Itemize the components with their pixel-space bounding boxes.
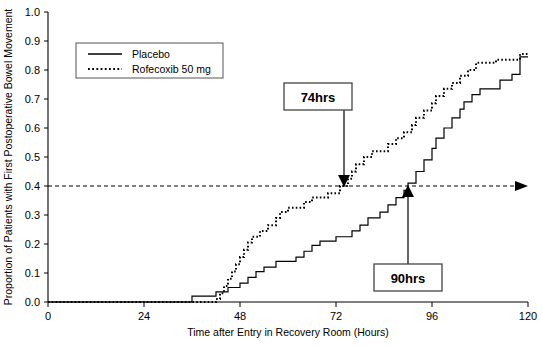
x-axis-title: Time after Entry in Recovery Room (Hours…	[187, 326, 389, 338]
legend-label-rofecoxib: Rofecoxib 50 mg	[132, 63, 211, 75]
x-axis-ticks	[48, 302, 528, 307]
y-tick-label: 0.8	[25, 64, 40, 76]
annotation-90hrs-label: 90hrs	[391, 271, 426, 286]
annotation-74hrs: 74hrs	[284, 83, 352, 187]
survival-curve-chart: 0.00.10.20.30.40.50.60.70.80.91.0 024487…	[0, 0, 542, 348]
y-tick-label: 0.5	[25, 151, 40, 163]
y-tick-label: 0.3	[25, 209, 40, 221]
y-tick-label: 0.6	[25, 122, 40, 134]
chart-figure: 0.00.10.20.30.40.50.60.70.80.91.0 024487…	[0, 0, 542, 348]
y-tick-label: 0.7	[25, 93, 40, 105]
reference-line-group	[48, 181, 528, 191]
x-tick-label: 24	[138, 310, 150, 322]
y-axis-ticks	[44, 12, 48, 302]
y-axis-title: Proportion of Patients with First Postop…	[2, 9, 14, 306]
annotation-74hrs-label: 74hrs	[301, 90, 336, 105]
y-tick-label: 0.2	[25, 238, 40, 250]
x-tick-label: 72	[330, 310, 342, 322]
y-tick-label: 0.0	[25, 296, 40, 308]
y-tick-label: 0.4	[25, 180, 40, 192]
legend-label-placebo: Placebo	[132, 48, 170, 60]
x-tick-label: 48	[234, 310, 246, 322]
annotation-90hrs: 90hrs	[374, 185, 442, 291]
y-axis-tick-labels: 0.00.10.20.30.40.50.60.70.80.91.0	[25, 6, 40, 308]
x-tick-label: 0	[45, 310, 51, 322]
reference-line-arrowhead	[515, 181, 528, 191]
x-axis-tick-labels: 024487296120	[45, 310, 537, 322]
y-tick-label: 0.9	[25, 35, 40, 47]
y-tick-label: 1.0	[25, 6, 40, 18]
y-tick-label: 0.1	[25, 267, 40, 279]
x-tick-label: 96	[426, 310, 438, 322]
x-tick-label: 120	[519, 310, 537, 322]
chart-legend: Placebo Rofecoxib 50 mg	[76, 43, 223, 78]
